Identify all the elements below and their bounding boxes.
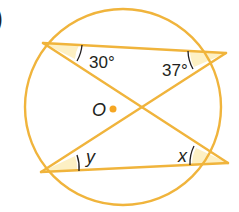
panel-marker: ) — [0, 3, 3, 33]
diagram-canvas: ) O 30° 37° y x — [0, 0, 239, 212]
inscribed-angles-diagram: ) O 30° 37° y x — [0, 0, 239, 212]
angle-label-b: 37° — [162, 61, 188, 80]
angle-label-c: y — [84, 147, 96, 167]
center-label: O — [92, 100, 106, 120]
circle — [25, 9, 221, 205]
angle-label-a: 30° — [89, 53, 115, 72]
angle-arc-c — [77, 155, 79, 171]
angle-label-d: x — [177, 146, 188, 166]
center-dot — [110, 106, 117, 113]
